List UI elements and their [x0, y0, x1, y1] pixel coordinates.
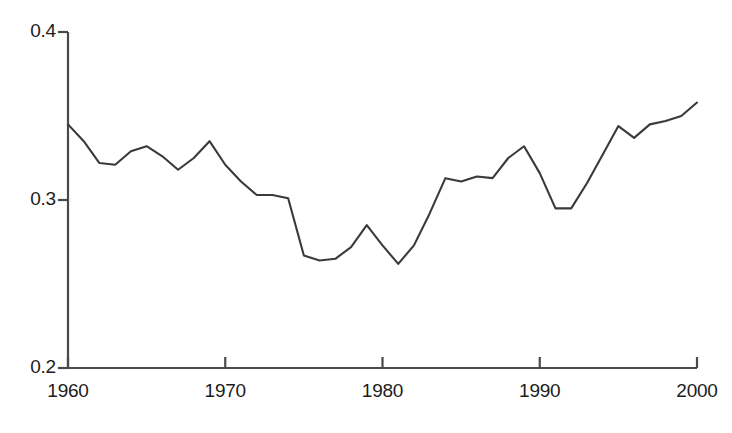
x-tick-label: 2000 — [657, 380, 732, 402]
x-tick-label: 1970 — [185, 380, 265, 402]
chart-plot-area — [0, 0, 732, 433]
x-tick-label: 1990 — [500, 380, 580, 402]
x-tick-label: 1960 — [28, 380, 108, 402]
axis-group — [68, 32, 697, 368]
data-series-line — [68, 103, 697, 264]
line-chart: 0.20.30.4 19601970198019902000 — [0, 0, 732, 433]
y-tick-label: 0.2 — [8, 356, 56, 378]
tick-marks — [58, 32, 697, 368]
y-tick-label: 0.4 — [8, 20, 56, 42]
x-tick-label: 1980 — [343, 380, 423, 402]
y-tick-label: 0.3 — [8, 188, 56, 210]
